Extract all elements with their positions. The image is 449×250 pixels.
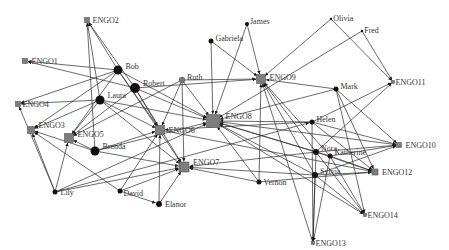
node-label-engo4: ENGO4 bbox=[23, 100, 49, 109]
engo-node-icon bbox=[257, 75, 266, 84]
edge-mark-to-engo10 bbox=[336, 89, 397, 143]
person-node-icon bbox=[53, 190, 58, 195]
person-node-icon bbox=[245, 22, 249, 26]
edge-james-to-engo9 bbox=[247, 24, 260, 74]
edge-robert-to-engo8 bbox=[135, 88, 207, 118]
person-node-icon bbox=[257, 180, 262, 185]
edge-katherine-to-engo14 bbox=[330, 156, 364, 213]
edge-gabriela-to-engo8 bbox=[211, 41, 213, 114]
node-label-engo9: ENGO9 bbox=[270, 73, 296, 82]
engo-node-icon bbox=[85, 18, 90, 23]
person-node-icon bbox=[209, 39, 214, 44]
node-label-engo2: ENGO2 bbox=[93, 16, 119, 25]
node-label-engo1: ENGO1 bbox=[32, 57, 58, 66]
edge-ruth-to-engo8 bbox=[182, 80, 209, 115]
edge-laura-to-engo6 bbox=[100, 100, 156, 128]
edge-brenda-to-engo7 bbox=[95, 151, 179, 166]
edge-lily-to-engo3 bbox=[32, 134, 55, 192]
node-label-engo6: ENGO6 bbox=[169, 126, 195, 135]
node-label-engo14: ENGO14 bbox=[368, 211, 398, 220]
node-layer bbox=[16, 18, 402, 245]
node-label-engo5: ENGO5 bbox=[78, 130, 104, 139]
node-label-james: James bbox=[250, 17, 270, 26]
node-label-laura: Laura bbox=[108, 91, 127, 100]
person-node-icon bbox=[130, 83, 140, 93]
node-label-engo12: ENGO12 bbox=[382, 168, 412, 177]
edge-lily-to-engo5 bbox=[55, 143, 68, 192]
node-label-ruth: Ruth bbox=[187, 73, 203, 82]
edge-vernon-to-engo8 bbox=[217, 127, 259, 182]
node-label-gabriela: Gabriela bbox=[216, 34, 244, 43]
node-label-mark: Mark bbox=[341, 82, 358, 91]
edge-engo8-to-engo10 bbox=[213, 121, 396, 145]
person-node-icon bbox=[91, 147, 100, 156]
node-label-vernon: Vernon bbox=[264, 178, 287, 187]
node-label-lily: Lily bbox=[61, 188, 74, 197]
person-node-icon bbox=[361, 30, 363, 32]
person-node-icon bbox=[334, 87, 339, 92]
edge-vernon-to-engo7 bbox=[189, 168, 259, 182]
engo-node-icon bbox=[156, 126, 165, 135]
edge-sylvia-to-engo7 bbox=[189, 167, 315, 175]
edge-nora-to-engo13 bbox=[313, 152, 316, 241]
network-diagram: ENGO1ENGO2ENGO3ENGO4ENGO5ENGO6ENGO7ENGO8… bbox=[0, 0, 449, 250]
node-label-sylvia: Sylvia bbox=[320, 167, 341, 176]
node-label-engo13: ENGO13 bbox=[316, 239, 346, 248]
engo-node-icon bbox=[179, 162, 189, 172]
node-label-olivia: Olivia bbox=[333, 14, 353, 23]
edge-olivia-to-engo9 bbox=[265, 19, 331, 76]
person-node-icon bbox=[156, 201, 162, 207]
engo-node-icon bbox=[65, 134, 74, 143]
edge-helen-to-engo13 bbox=[312, 122, 313, 241]
edge-ruth-to-engo7 bbox=[182, 80, 184, 162]
edge-olivia-to-engo11 bbox=[331, 19, 392, 81]
person-node-icon bbox=[313, 149, 319, 155]
edge-lily-to-engo4 bbox=[19, 107, 55, 192]
node-label-brenda: Brenda bbox=[103, 142, 127, 151]
person-node-icon bbox=[312, 172, 318, 178]
edge-nora-to-engo14 bbox=[316, 152, 364, 213]
engo-node-icon bbox=[28, 127, 35, 134]
edge-fred-to-engo11 bbox=[362, 31, 392, 80]
engo-node-icon bbox=[397, 143, 402, 148]
engo-node-icon bbox=[372, 169, 378, 175]
person-node-icon bbox=[114, 66, 123, 75]
edge-gabriela-to-engo9 bbox=[211, 41, 257, 76]
person-node-icon bbox=[328, 154, 333, 159]
node-label-engo7: ENGO7 bbox=[193, 158, 219, 167]
node-label-engo10: ENGO10 bbox=[406, 141, 436, 150]
person-node-icon bbox=[96, 96, 105, 105]
node-label-engo11: ENGO11 bbox=[396, 78, 426, 87]
engo-node-icon bbox=[364, 214, 367, 217]
node-label-fred: Fred bbox=[364, 26, 379, 35]
edge-engo8-to-engo14 bbox=[213, 121, 363, 214]
node-label-katherine: Katherine bbox=[335, 148, 367, 157]
node-label-david: David bbox=[124, 189, 144, 198]
engo-node-icon bbox=[207, 115, 220, 128]
engo-node-icon bbox=[16, 102, 21, 107]
edge-engo13-to-engo9 bbox=[263, 84, 313, 243]
edge-vernon-to-engo9 bbox=[259, 84, 261, 182]
person-node-icon bbox=[179, 77, 185, 83]
edge-nora-to-engo9 bbox=[264, 83, 316, 152]
engo-node-icon bbox=[312, 242, 315, 245]
node-label-helen: Helen bbox=[317, 115, 336, 124]
person-node-icon bbox=[310, 120, 315, 125]
edge-helen-to-engo8 bbox=[220, 121, 312, 122]
node-label-robert: Robert bbox=[143, 79, 166, 88]
node-label-engo8: ENGO8 bbox=[226, 112, 252, 121]
engo-node-icon bbox=[23, 59, 28, 64]
node-label-engo3: ENGO3 bbox=[39, 121, 65, 130]
person-node-icon bbox=[330, 18, 332, 20]
engo-node-icon bbox=[392, 81, 395, 84]
edge-bob-to-engo2 bbox=[89, 23, 118, 70]
node-label-bob: Bob bbox=[126, 62, 139, 71]
edge-helen-to-engo10 bbox=[312, 122, 396, 144]
edge-layer bbox=[19, 19, 397, 243]
edge-ruth-to-engo5 bbox=[73, 80, 182, 136]
person-node-icon bbox=[118, 189, 123, 194]
node-label-elanor: Elanor bbox=[165, 200, 187, 209]
